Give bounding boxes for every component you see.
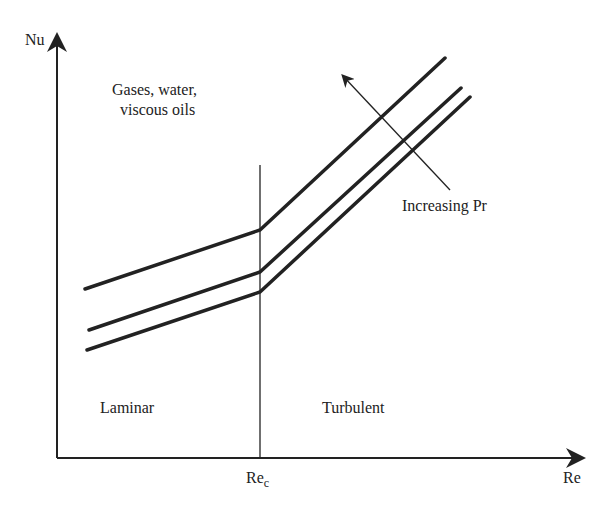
- increasing-pr-label: Increasing Pr: [402, 196, 487, 216]
- critical-re-label: Rec: [246, 468, 269, 493]
- turbulent-label: Turbulent: [322, 398, 385, 418]
- fluids-label: Gases, water, viscous oils: [112, 80, 197, 120]
- diagram-canvas: [0, 0, 613, 511]
- y-axis-label: Nu: [25, 30, 45, 50]
- laminar-label: Laminar: [100, 398, 154, 418]
- x-axis-label: Re: [563, 468, 581, 488]
- increasing-pr-arrow: [343, 76, 450, 190]
